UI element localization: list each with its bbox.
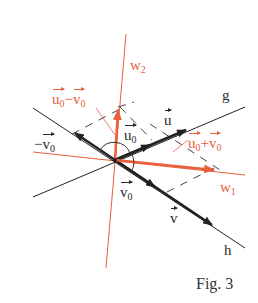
vector-u0 (115, 145, 150, 160)
figure-3: w2 g u0−v0 u u0 −v0 u0+v0 w1 v0 v h Fig.… (0, 0, 258, 303)
label-u0-plus-v0: u0+v0 (188, 136, 221, 153)
figure-caption: Fig. 3 (196, 276, 233, 292)
label-minus-v0: −v0 (34, 137, 55, 154)
label-w1: w1 (220, 180, 236, 197)
label-h: h (224, 243, 232, 258)
leader-u0-minus-v0 (96, 108, 115, 135)
label-u0-minus-v0: u0−v0 (52, 92, 85, 109)
label-w2: w2 (130, 58, 146, 75)
label-u0: u0 (124, 128, 137, 145)
label-v0: v0 (120, 185, 133, 202)
vector-u0-minus-v0 (115, 110, 118, 160)
label-u: u (164, 113, 172, 128)
leader-u0-plus-v0 (173, 140, 188, 152)
line-h (33, 108, 245, 248)
vector-minus-v0 (75, 133, 115, 160)
label-v: v (170, 211, 178, 226)
label-g: g (222, 88, 230, 103)
origin-point (113, 158, 117, 162)
